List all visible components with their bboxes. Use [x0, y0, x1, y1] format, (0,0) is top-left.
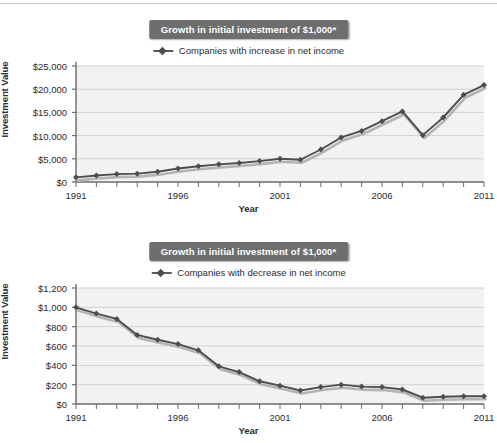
x-tick-label: 2001 [269, 190, 290, 201]
x-tick-label: 1996 [167, 412, 188, 423]
figure-page: Growth in initial investment of $1,000* … [0, 0, 497, 443]
x-axis-title: Year [0, 203, 497, 214]
x-tick-label: 2006 [371, 412, 392, 423]
x-tick-label: 1996 [167, 190, 188, 201]
x-tick-label: 2001 [269, 412, 290, 423]
x-tick-label: 1991 [65, 190, 86, 201]
x-axis-tick-labels: 19911996200120062011 [0, 6, 497, 227]
x-tick-label: 2011 [474, 412, 494, 423]
chart-figure-increase: Growth in initial investment of $1,000* … [0, 6, 497, 227]
x-axis-title: Year [0, 425, 497, 436]
plot-area: Investment Value $0$200$400$600$800$1,00… [0, 228, 497, 443]
plot-area: Investment Value $0$5,000$10,000$15,000$… [0, 6, 497, 227]
top-divider-rule [0, 3, 497, 4]
x-tick-label: 2006 [371, 190, 392, 201]
x-tick-label: 2011 [474, 190, 494, 201]
chart-figure-decrease: Growth in initial investment of $1,000* … [0, 228, 497, 443]
x-axis-tick-labels: 19911996200120062011 [0, 228, 497, 443]
x-tick-label: 1991 [65, 412, 86, 423]
